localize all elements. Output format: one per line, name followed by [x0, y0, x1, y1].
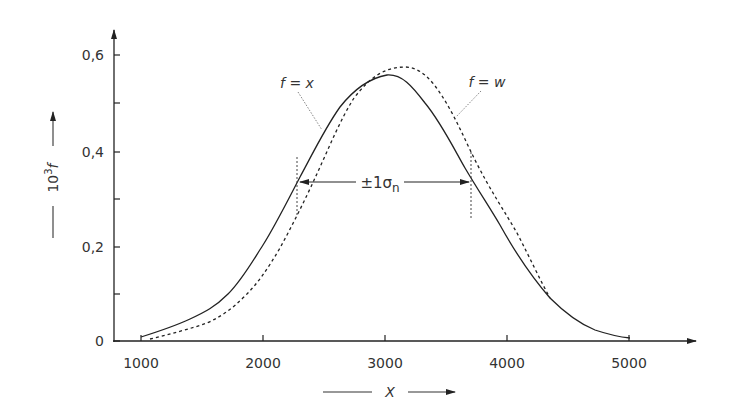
y-tick-0: 0 — [95, 333, 104, 349]
x-tick-4000: 4000 — [489, 355, 525, 371]
x-axis — [113, 335, 696, 341]
x-tick-3000: 3000 — [367, 355, 403, 371]
x-axis-title: X — [384, 384, 395, 400]
label-f-x: f = x — [280, 75, 315, 91]
x-tick-1000: 1000 — [123, 355, 159, 371]
y-tick-0-6: 0,6 — [82, 47, 104, 63]
y-axis-label: 103f — [43, 112, 61, 238]
annotation-f-x: f = x — [280, 75, 322, 130]
sigma-label: ±1σn — [360, 174, 399, 195]
y-axis — [114, 30, 120, 342]
x-axis-label: X — [323, 384, 455, 400]
y-tick-0-4: 0,4 — [82, 144, 104, 160]
x-tick-5000: 5000 — [611, 355, 647, 371]
x-tick-2000: 2000 — [245, 355, 281, 371]
y-axis-title: 103f — [43, 161, 61, 192]
sigma-range-annotation: ±1σn — [297, 152, 471, 219]
chart: 1000 2000 3000 4000 5000 0 0,2 0,4 0,6 X… — [0, 0, 734, 419]
annotation-f-w: f = w — [456, 74, 506, 117]
y-tick-0-2: 0,2 — [82, 239, 104, 255]
dashed-curve-f-w — [150, 67, 550, 339]
label-f-w: f = w — [468, 74, 506, 90]
solid-curve-f-x — [141, 75, 630, 338]
